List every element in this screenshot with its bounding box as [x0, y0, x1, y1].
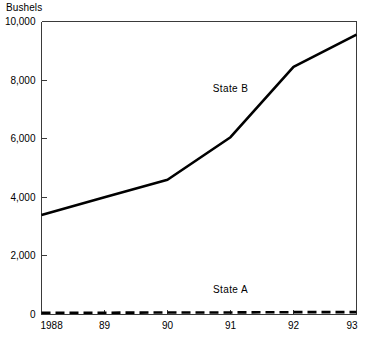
series-line-state-a [42, 312, 357, 313]
x-tick-label: 92 [288, 320, 300, 331]
y-tick-label: 8,000 [10, 75, 35, 86]
y-tick-label: 10,000 [5, 16, 36, 27]
series-label-state-b: State B [213, 83, 249, 94]
line-chart-plot: 02,0004,0006,0008,00010,000 198889909192… [0, 0, 366, 343]
y-tick-label: 6,000 [10, 133, 35, 144]
y-axis-ticks: 02,0004,0006,0008,00010,000 [5, 16, 47, 320]
series-line-state-b [42, 35, 357, 215]
x-tick-label: 91 [225, 320, 237, 331]
chart-container: Bushels 02,0004,0006,0008,00010,000 1988… [0, 0, 366, 343]
x-tick-label: 90 [162, 320, 174, 331]
x-tick-label: 89 [99, 320, 111, 331]
y-tick-label: 4,000 [10, 192, 35, 203]
y-tick-label: 0 [30, 309, 36, 320]
x-tick-label: 93 [346, 320, 358, 331]
y-tick-label: 2,000 [10, 250, 35, 261]
x-tick-label: 1988 [41, 320, 64, 331]
series-label-state-a: State A [213, 284, 248, 295]
plot-frame [42, 22, 357, 315]
